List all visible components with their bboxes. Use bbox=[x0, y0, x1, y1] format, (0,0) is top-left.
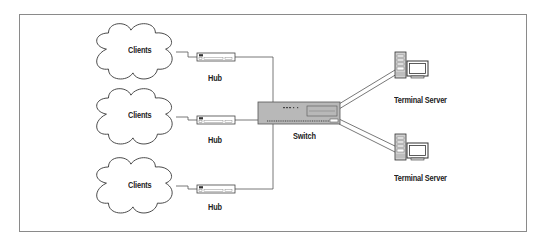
hub-icon-2 bbox=[197, 116, 235, 124]
hub-label-3: Hub bbox=[208, 202, 222, 212]
hub-label-1: Hub bbox=[208, 73, 222, 83]
terminal-server-label-1: Terminal Server bbox=[394, 95, 447, 105]
hub-label-2: Hub bbox=[208, 135, 222, 145]
terminal-server-icon-1 bbox=[395, 52, 428, 78]
switch-label: Switch bbox=[293, 131, 316, 141]
terminal-server-label-2: Terminal Server bbox=[394, 173, 447, 183]
clients-label-2: Clients bbox=[128, 110, 151, 120]
clients-label-1: Clients bbox=[128, 45, 151, 55]
clients-label-3: Clients bbox=[128, 180, 151, 190]
network-diagram bbox=[0, 0, 544, 244]
switch-icon bbox=[258, 102, 340, 124]
hub-icon-3 bbox=[197, 185, 235, 193]
hub-icon-1 bbox=[197, 53, 235, 61]
terminal-server-icon-2 bbox=[395, 134, 428, 160]
